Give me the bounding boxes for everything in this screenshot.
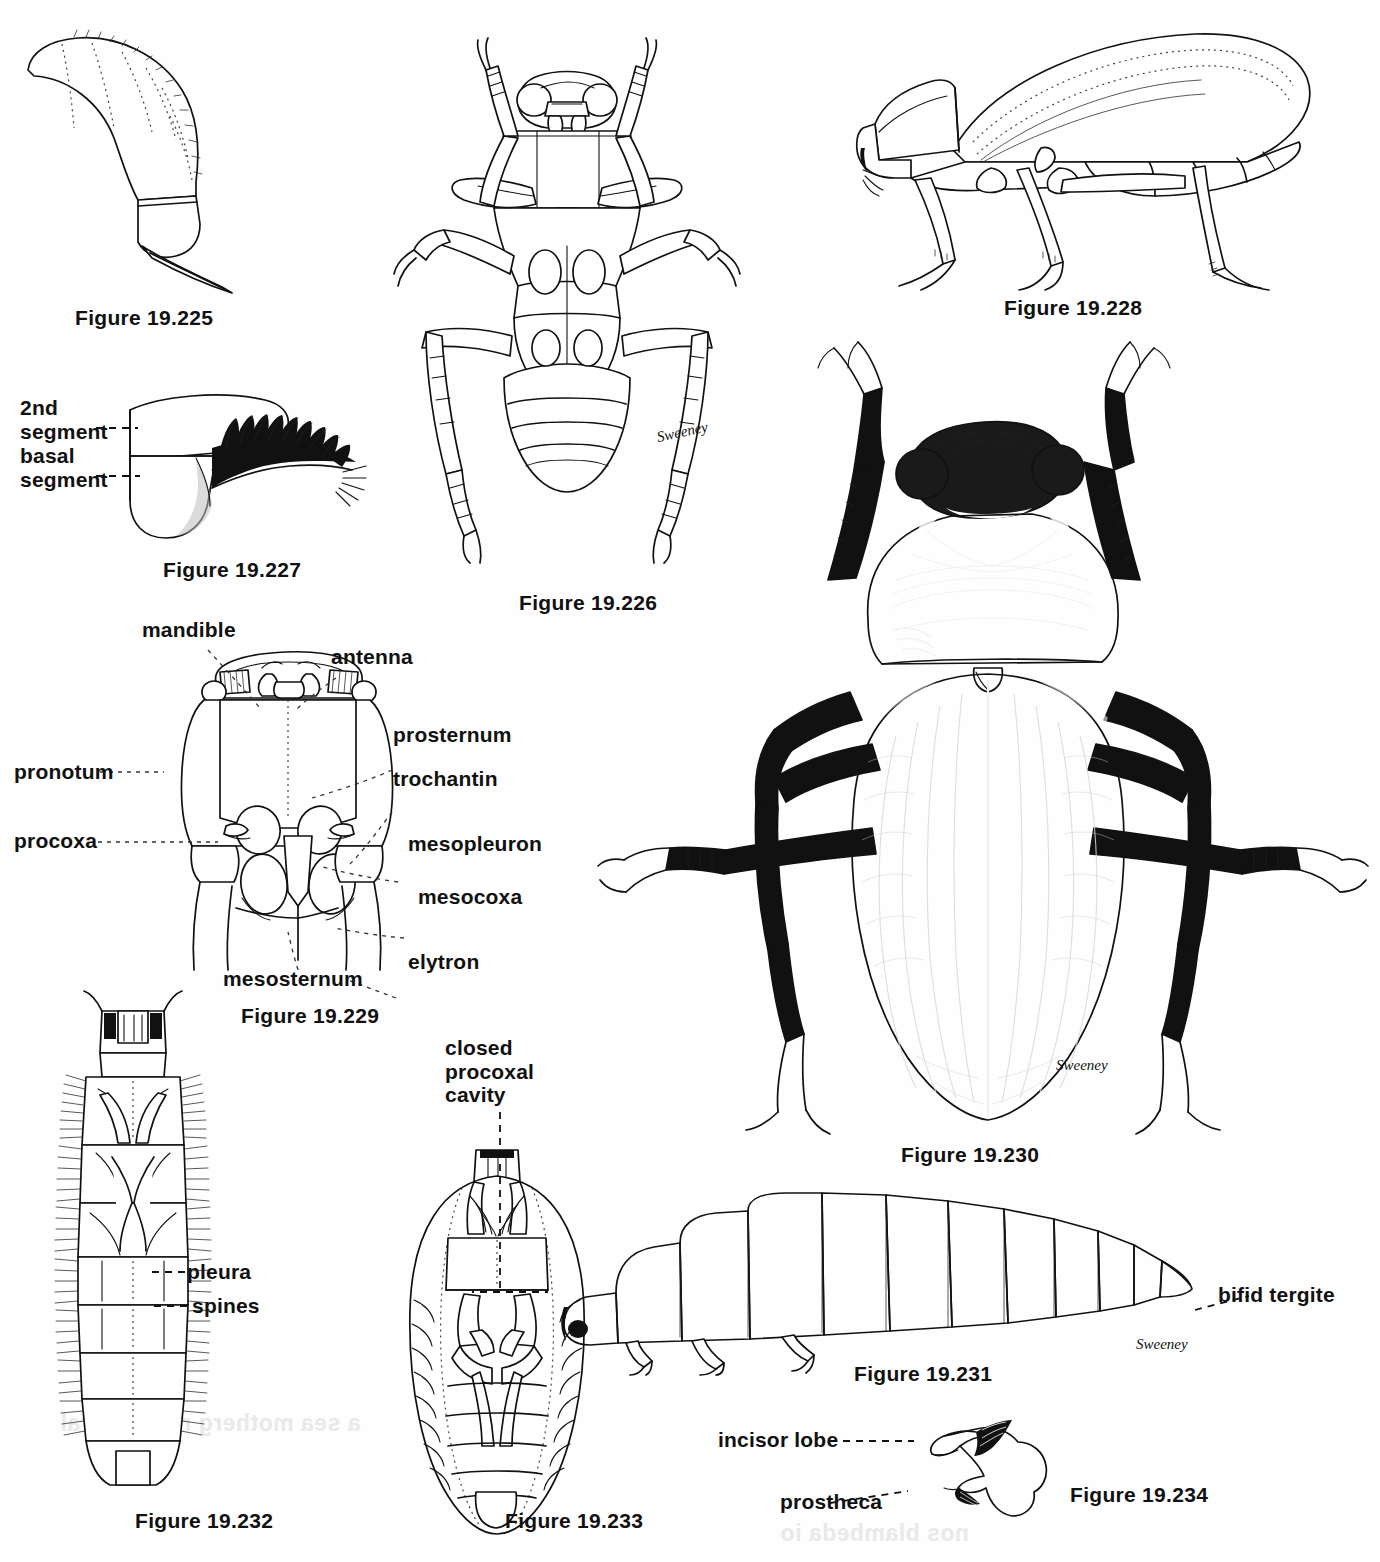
label-prostheca: prostheca [780,1490,882,1514]
label-mesocoxa: mesocoxa [418,885,522,909]
label-bifid-tergite: bifid tergite [1218,1283,1335,1307]
figure-19-230-drawing: Sweeney [596,330,1380,1160]
figure-19-230: Sweeney [596,330,1380,1160]
caption-19-229: Figure 19.229 [241,1004,379,1028]
figure-19-228-drawing [855,20,1355,290]
figure-19-225-drawing [10,10,330,300]
caption-19-232: Figure 19.232 [135,1509,273,1533]
label-2nd-segment: 2nd segment [20,396,108,443]
caption-19-228: Figure 19.228 [1004,296,1142,320]
caption-19-231: Figure 19.231 [854,1362,992,1386]
label-trochantin: trochantin [393,767,498,791]
label-elytron: elytron [408,950,479,974]
figure-19-228 [855,20,1355,290]
label-mesopleuron: mesopleuron [408,832,542,856]
figure-19-231-drawing: Sweeney [556,1185,1216,1375]
signature-230: Sweeney [1056,1057,1108,1073]
label-incisor-lobe: incisor lobe [718,1428,838,1452]
caption-19-230: Figure 19.230 [901,1143,1039,1167]
label-antenna: antenna [331,645,413,669]
label-spines: spines [192,1294,260,1318]
figure-19-234-leaders [830,1425,940,1535]
label-procoxa: procoxa [14,829,97,853]
figure-19-225 [10,10,330,300]
caption-19-225: Figure 19.225 [75,306,213,330]
label-prosternum: prosternum [393,723,512,747]
label-basal-segment: basal segment [20,444,108,491]
figure-19-231: Sweeney [556,1185,1216,1375]
figure-plate: a sea motherg rood lateral nos blambeda … [0,0,1380,1562]
caption-19-234: Figure 19.234 [1070,1483,1208,1507]
figure-19-232 [18,985,248,1485]
label-closed-procoxal-cavity: closed procoxal cavity [445,1036,534,1107]
caption-19-233: Figure 19.233 [505,1509,643,1533]
caption-19-227: Figure 19.227 [163,558,301,582]
label-pronotum: pronotum [14,760,114,784]
label-mandible: mandible [142,618,236,642]
figure-19-232-drawing [18,985,248,1485]
figure-19-229-leaders [0,600,600,1020]
label-pleura: pleura [187,1260,251,1284]
signature-231: Sweeney [1136,1336,1188,1352]
